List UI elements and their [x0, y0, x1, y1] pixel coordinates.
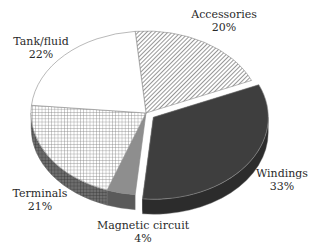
- label-terminals-pct: 21%: [8, 200, 72, 213]
- label-windings-pct: 33%: [250, 180, 314, 193]
- label-magnetic-name: Magnetic circuit: [88, 219, 198, 232]
- label-windings-name: Windings: [250, 167, 314, 180]
- label-windings: Windings 33%: [250, 167, 314, 193]
- label-tank: Tank/fluid 22%: [8, 35, 74, 61]
- label-tank-pct: 22%: [8, 48, 74, 61]
- label-magnetic-pct: 4%: [88, 232, 198, 245]
- label-accessories-pct: 20%: [178, 21, 270, 34]
- label-magnetic: Magnetic circuit 4%: [88, 219, 198, 245]
- label-terminals-name: Terminals: [8, 187, 72, 200]
- label-accessories: Accessories 20%: [178, 8, 270, 34]
- label-tank-name: Tank/fluid: [8, 35, 74, 48]
- label-terminals: Terminals 21%: [8, 187, 72, 213]
- label-accessories-name: Accessories: [178, 8, 270, 21]
